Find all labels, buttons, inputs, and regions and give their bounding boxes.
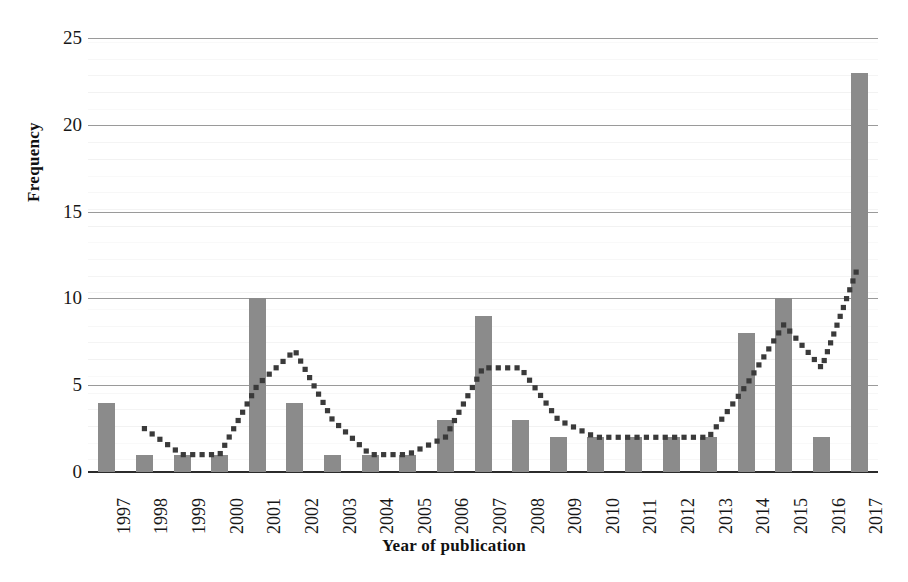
trendline-dot bbox=[538, 393, 543, 398]
y-tick-label: 0 bbox=[44, 462, 82, 481]
trendline-dot bbox=[357, 442, 362, 447]
trendline-dot bbox=[828, 340, 833, 345]
trendline-dot bbox=[681, 435, 686, 440]
trendline-dot bbox=[831, 331, 836, 336]
trendline-dot bbox=[236, 418, 241, 423]
trendline-dot bbox=[730, 401, 735, 406]
trendline-dot bbox=[571, 424, 576, 429]
x-tick-label: 2017 bbox=[867, 464, 885, 534]
trendline-dot bbox=[443, 434, 448, 439]
trendline-dot bbox=[521, 370, 526, 375]
trendline-dot bbox=[316, 392, 321, 397]
trendline-dot bbox=[714, 424, 719, 429]
trendline-dot bbox=[850, 278, 855, 283]
trendline-dot bbox=[854, 270, 859, 275]
trendline-dot bbox=[320, 400, 325, 405]
trendline-dot bbox=[381, 452, 386, 457]
trendline-dot bbox=[725, 409, 730, 414]
trendline-dot bbox=[579, 428, 584, 433]
x-tick-label: 2008 bbox=[529, 464, 547, 534]
trendline-dot bbox=[496, 365, 501, 370]
x-axis-title: Year of publication bbox=[0, 536, 908, 556]
trendline-dot bbox=[465, 393, 470, 398]
trendline-dot bbox=[597, 435, 602, 440]
y-tick-label: 20 bbox=[44, 115, 82, 134]
x-tick-label: 2004 bbox=[378, 464, 396, 534]
trendline-dot bbox=[150, 431, 155, 436]
x-tick-label: 1997 bbox=[115, 464, 133, 534]
trendline-dot bbox=[505, 365, 510, 370]
y-axis-tick-labels: 0510152025 bbox=[36, 0, 82, 582]
bar-chart: Frequency 0510152025 1997199819992000200… bbox=[0, 0, 908, 582]
trendline-dot bbox=[841, 305, 846, 310]
x-tick-label: 1998 bbox=[152, 464, 170, 534]
trendline-dot bbox=[818, 364, 823, 369]
trendline-dot bbox=[844, 296, 849, 301]
trendline-dot bbox=[776, 330, 781, 335]
trendline-dot bbox=[173, 447, 178, 452]
trendline-dot bbox=[350, 436, 355, 441]
x-tick-label: 2005 bbox=[416, 464, 434, 534]
trendline-dot bbox=[799, 343, 804, 348]
trendline-dot bbox=[554, 416, 559, 421]
trendline-dot bbox=[847, 287, 852, 292]
trendline-dot bbox=[280, 359, 285, 364]
trendline-dot bbox=[157, 437, 162, 442]
trendline-dot bbox=[287, 352, 292, 357]
x-tick-label: 2015 bbox=[792, 464, 810, 534]
trendline-dot bbox=[227, 434, 232, 439]
trendline-dot bbox=[761, 354, 766, 359]
trendline-dot bbox=[364, 448, 369, 453]
trendline-dot bbox=[479, 368, 484, 373]
trendline-dot bbox=[298, 358, 303, 363]
trendline-dot bbox=[267, 372, 272, 377]
trendline-layer bbox=[88, 38, 878, 472]
trendline-dot bbox=[329, 416, 334, 421]
y-tick-label: 5 bbox=[44, 375, 82, 394]
trendline-dot bbox=[771, 338, 776, 343]
trendline-dot bbox=[260, 378, 265, 383]
y-tick-label: 25 bbox=[44, 28, 82, 47]
trendline-dot bbox=[812, 357, 817, 362]
trendline-dot bbox=[746, 378, 751, 383]
trendline-dot bbox=[294, 350, 299, 355]
trendline-dot bbox=[549, 408, 554, 413]
trendline-dot bbox=[766, 346, 771, 351]
plot-area bbox=[88, 38, 878, 472]
trendline-dot bbox=[708, 432, 713, 437]
trendline-dot bbox=[390, 452, 395, 457]
trendline-dot bbox=[756, 362, 761, 367]
trendline-dot bbox=[806, 350, 811, 355]
trendline-dot bbox=[514, 365, 519, 370]
trendline-dot bbox=[532, 385, 537, 390]
x-tick-label: 2009 bbox=[566, 464, 584, 534]
trendline-dot bbox=[245, 401, 250, 406]
trendline-dot bbox=[372, 452, 377, 457]
trendline-dot bbox=[447, 426, 452, 431]
trendline-dot bbox=[486, 365, 491, 370]
trendline-dot bbox=[240, 410, 245, 415]
trendline-dot bbox=[527, 378, 532, 383]
trendline-dot bbox=[222, 443, 227, 448]
x-tick-label: 2002 bbox=[303, 464, 321, 534]
trendline-dot bbox=[434, 439, 439, 444]
trendline-dot bbox=[336, 423, 341, 428]
trendline-dot bbox=[562, 420, 567, 425]
trendline-dot bbox=[663, 435, 668, 440]
trendline-dot bbox=[218, 451, 223, 456]
x-tick-label: 2012 bbox=[679, 464, 697, 534]
trendline-dot bbox=[606, 435, 611, 440]
trendline-dot bbox=[249, 393, 254, 398]
trendline-dot bbox=[700, 435, 705, 440]
trendline-dot bbox=[691, 435, 696, 440]
trendline-dot bbox=[588, 432, 593, 437]
trendline-dot bbox=[543, 400, 548, 405]
trendline-dot bbox=[672, 435, 677, 440]
x-tick-label: 2011 bbox=[641, 464, 659, 534]
trendline-dot bbox=[625, 435, 630, 440]
trendline-dot bbox=[165, 442, 170, 447]
trendline-dot bbox=[456, 410, 461, 415]
trendline-dot bbox=[834, 323, 839, 328]
trendline-dot bbox=[200, 452, 205, 457]
trendline-dot bbox=[426, 442, 431, 447]
